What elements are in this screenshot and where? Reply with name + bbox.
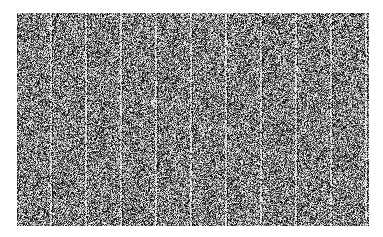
- noise-texture-image: [17, 13, 369, 226]
- noise-canvas: [17, 13, 369, 226]
